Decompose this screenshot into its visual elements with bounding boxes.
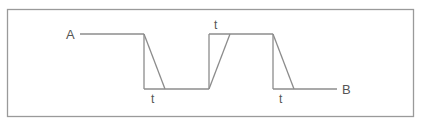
timing-diagram: A t t t B xyxy=(0,0,422,126)
label-start-A: A xyxy=(66,27,75,42)
diagram-frame xyxy=(8,10,414,117)
label-end-B: B xyxy=(342,82,351,97)
